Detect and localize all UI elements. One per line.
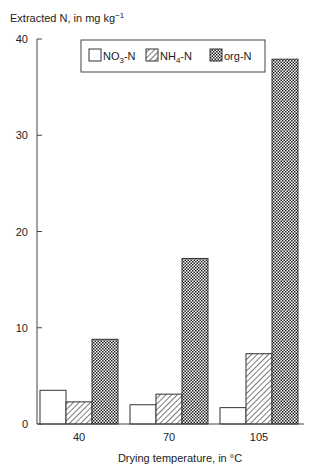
bar-chart: Extracted N, in mg kg−1 010203040 407010…: [0, 0, 320, 474]
bar-open: [220, 408, 246, 424]
bar-crosshatch: [182, 258, 208, 424]
x-tick-label: 105: [250, 431, 268, 443]
bar-hatch: [66, 402, 92, 424]
y-axis: 010203040: [16, 33, 42, 430]
bar-hatch: [156, 394, 182, 424]
y-tick-label: 30: [16, 129, 28, 141]
y-tick-label: 0: [22, 418, 28, 430]
bar-crosshatch: [92, 339, 118, 424]
x-axis-label: Drying temperature, in °C: [118, 452, 242, 464]
y-tick-label: 20: [16, 226, 28, 238]
x-axis: 4070105: [37, 424, 304, 443]
legend-swatch-crosshatch: [210, 49, 222, 61]
legend: NO3-NNH4-Norg-N: [81, 40, 265, 72]
y-tick-label: 10: [16, 322, 28, 334]
bar-crosshatch: [272, 59, 298, 424]
bar-open: [40, 390, 66, 424]
bar-open: [130, 405, 156, 424]
y-axis-label: Extracted N, in mg kg−1: [10, 11, 125, 24]
y-tick-label: 40: [16, 33, 28, 45]
legend-swatch-open: [89, 49, 101, 61]
bar-hatch: [246, 354, 272, 424]
legend-label: org-N: [224, 50, 252, 62]
legend-swatch-hatch: [146, 49, 158, 61]
x-tick-label: 40: [73, 431, 85, 443]
x-tick-label: 70: [163, 431, 175, 443]
bars: [40, 59, 298, 424]
